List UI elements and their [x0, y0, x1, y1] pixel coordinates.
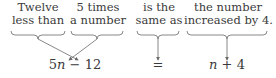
- underbrace-icon: [11, 31, 65, 39]
- constant: 12: [85, 57, 102, 72]
- underbrace-icon: [137, 31, 179, 39]
- underbrace-icon: [187, 31, 267, 39]
- expression-right: n + 4: [202, 58, 252, 72]
- operator: +: [222, 57, 233, 72]
- constant: 4: [237, 57, 245, 72]
- expression-left: 5n − 12: [40, 58, 110, 72]
- coefficient: 5: [49, 57, 57, 72]
- equals-sign: =: [148, 58, 168, 72]
- underbrace-icon: [71, 31, 123, 39]
- variable: n: [57, 57, 65, 72]
- equals: =: [153, 57, 164, 72]
- variable: n: [209, 57, 217, 72]
- operator: −: [70, 57, 81, 72]
